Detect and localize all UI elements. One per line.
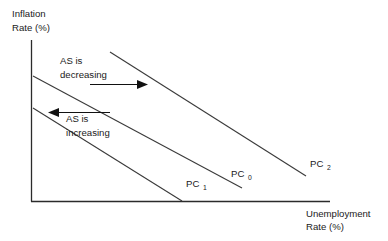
x-axis-label: Unemployment Rate (%) [306, 208, 371, 232]
x-axis-label-line1: Unemployment [306, 208, 371, 219]
curve-label-pc0: PC 0 [231, 168, 252, 181]
curve-label-pc2-subscript: 2 [327, 164, 331, 171]
as-decreasing-arrow [90, 80, 148, 89]
as-increasing-annotation: AS is increasing [66, 113, 110, 138]
curve-pc1 [33, 108, 182, 201]
curve-pc2 [110, 52, 306, 176]
curve-pc0 [33, 76, 242, 188]
phillips-curve-figure: Inflation Rate (%) Unemployment Rate (%)… [0, 0, 388, 241]
curve-label-pc2: PC 2 [310, 158, 331, 171]
diagram-canvas: Inflation Rate (%) Unemployment Rate (%)… [0, 0, 388, 241]
y-axis-label-line1: Inflation [12, 8, 46, 19]
curve-label-pc0-subscript: 0 [248, 174, 252, 181]
as-decreasing-line1: AS is [60, 55, 83, 66]
y-axis-label: Inflation Rate (%) [12, 8, 50, 33]
as-increasing-line1: AS is [66, 113, 89, 124]
curve-label-pc1-subscript: 1 [203, 184, 207, 191]
curve-label-pc1: PC 1 [186, 178, 207, 191]
y-axis-label-line2: Rate (%) [12, 22, 50, 33]
as-increasing-line2: increasing [66, 127, 110, 138]
curve-label-pc1-base: PC [186, 178, 199, 189]
as-increasing-arrow-head [48, 108, 59, 117]
curve-label-pc2-base: PC [310, 158, 323, 169]
as-decreasing-arrow-head [137, 80, 148, 89]
x-axis-label-line2: Rate (%) [306, 221, 344, 232]
as-decreasing-annotation: AS is decreasing [60, 55, 107, 80]
as-decreasing-line2: decreasing [60, 69, 107, 80]
curve-label-pc0-base: PC [231, 168, 244, 179]
